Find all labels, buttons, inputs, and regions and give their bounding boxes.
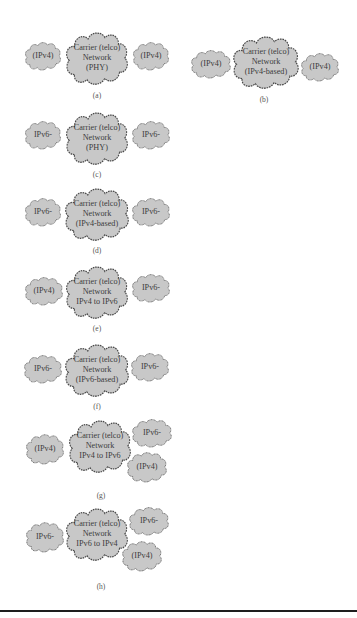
cloud-left: (IPv4) <box>190 49 232 79</box>
caption: (g) <box>91 491 111 500</box>
carrier-label: Carrier (telco) <box>74 519 121 529</box>
cloud-label: IPv6- <box>34 130 52 140</box>
cloud-right-bottom: (IPv4) <box>126 451 168 483</box>
layer-label: (PHY) <box>86 143 108 153</box>
layer-label: IPv4 to IPv6 <box>76 297 117 307</box>
cloud-label: (IPv4) <box>141 51 162 61</box>
cloud-carrier: Carrier (telco)Network(IPv4-based) <box>231 34 301 90</box>
cloud-left: (IPv4) <box>25 433 65 465</box>
cloud-label: (IPv4) <box>201 59 222 69</box>
network-label: Network <box>252 57 281 67</box>
carrier-label: Carrier (telco) <box>74 355 121 365</box>
cloud-right: IPv6- <box>131 197 171 227</box>
network-label: Network <box>83 287 112 297</box>
layer-label: (IPv6-based) <box>76 375 118 385</box>
cloud-left: IPv6- <box>24 120 62 150</box>
network-label: Network <box>83 133 112 143</box>
caption: (c) <box>87 170 107 179</box>
carrier-label: Carrier (telco) <box>74 43 121 53</box>
carrier-label: Carrier (telco) <box>77 431 124 441</box>
cloud-label: (IPv4) <box>35 444 56 454</box>
layer-label: IPv6 to IPv4 <box>76 539 117 549</box>
cloud-carrier: Carrier (telco)Network(IPv6-based) <box>63 342 131 398</box>
cloud-label: (IPv4) <box>310 62 331 72</box>
cloud-right-top: IPv6- <box>131 418 173 448</box>
network-label: Network <box>83 365 112 375</box>
caption: (a) <box>87 91 107 100</box>
network-label: Network <box>86 441 115 451</box>
caption: (b) <box>254 95 274 104</box>
layer-label: (PHY) <box>86 63 108 73</box>
carrier-label: Carrier (telco) <box>74 123 121 133</box>
cloud-right: (IPv4) <box>132 41 170 71</box>
cloud-label: IPv6- <box>143 428 161 438</box>
cloud-right: IPv6- <box>130 352 170 382</box>
cloud-label: IPv6- <box>141 362 159 372</box>
layer-label: (IPv4-based) <box>76 219 118 229</box>
cloud-carrier: Carrier (telco)Network(IPv4-based) <box>63 186 131 242</box>
cloud-label: (IPv4) <box>33 51 54 61</box>
cloud-label: IPv6- <box>142 207 160 217</box>
cloud-left: (IPv4) <box>24 41 62 71</box>
cloud-left: (IPv4) <box>24 276 64 306</box>
carrier-label: Carrier (telco) <box>243 47 290 57</box>
network-label: Network <box>83 53 112 63</box>
network-label: Network <box>83 209 112 219</box>
cloud-label: IPv6- <box>140 516 158 526</box>
cloud-label: IPv6- <box>34 207 52 217</box>
layer-label: (IPv4-based) <box>245 67 287 77</box>
cloud-right-bottom: (IPv4) <box>121 540 163 572</box>
layer-label: IPv4 to IPv6 <box>79 451 120 461</box>
cloud-right-top: IPv6- <box>128 506 170 536</box>
cloud-label: IPv6- <box>34 364 52 374</box>
cloud-label: (IPv4) <box>137 462 158 472</box>
carrier-label: Carrier (telco) <box>74 199 121 209</box>
cloud-right: IPv6- <box>131 120 171 150</box>
cloud-label: (IPv4) <box>132 551 153 561</box>
cloud-left: IPv6- <box>23 354 63 384</box>
cloud-carrier: Carrier (telco)NetworkIPv4 to IPv6 <box>64 264 130 320</box>
caption: (f) <box>87 402 107 411</box>
bottom-rule <box>0 610 357 612</box>
cloud-right: (IPv4) <box>300 52 340 82</box>
network-label: Network <box>83 529 112 539</box>
cloud-label: IPv6- <box>142 130 160 140</box>
caption: (d) <box>87 246 107 255</box>
cloud-label: IPv6- <box>142 283 160 293</box>
cloud-label: IPv6- <box>36 532 54 542</box>
caption: (h) <box>91 582 111 591</box>
cloud-carrier: Carrier (telco)Network(PHY) <box>64 110 130 166</box>
carrier-label: Carrier (telco) <box>74 277 121 287</box>
cloud-carrier: Carrier (telco)Network(PHY) <box>64 30 130 86</box>
caption: (e) <box>87 324 107 333</box>
cloud-right: IPv6- <box>131 273 171 303</box>
cloud-left: IPv6- <box>24 197 62 227</box>
cloud-left: IPv6- <box>25 521 65 553</box>
cloud-label: (IPv4) <box>34 286 55 296</box>
cloud-carrier: Carrier (telco)NetworkIPv4 to IPv6 <box>67 418 133 474</box>
